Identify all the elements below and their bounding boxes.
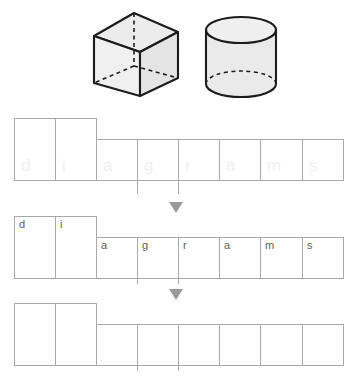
worksheet-row-trace-ghost[interactable]: d i a g r a m s (0, 112, 362, 194)
worksheet-page: d i a g r a m s d (0, 0, 362, 390)
shapes-illustration (0, 0, 362, 112)
start-arrow-icon (169, 202, 183, 213)
cube-icon (86, 8, 186, 104)
start-arrow-icon (169, 289, 183, 300)
cylinder-icon (200, 10, 282, 106)
letter-grid (0, 112, 362, 194)
cylinder-shape (200, 10, 282, 106)
cube-shape (86, 8, 186, 104)
worksheet-row-blank[interactable] (0, 285, 362, 371)
worksheet-row-model[interactable]: d i a g r a m s (0, 198, 362, 284)
